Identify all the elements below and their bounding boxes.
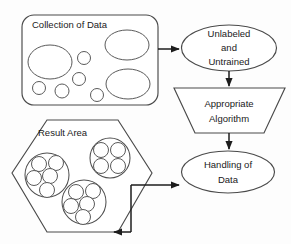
- blob-small-4: [55, 84, 69, 98]
- node-unlabeled-and-untrained[interactable]: Unlabeled and Untrained: [182, 25, 277, 71]
- cluster-top-right: [90, 138, 130, 178]
- blob-bottom-right: [106, 69, 150, 99]
- blob-small-1: [78, 52, 91, 65]
- blob-left-large: [28, 45, 72, 79]
- algorithm-line1: Appropriate: [204, 98, 253, 109]
- result-area-label: Result Area: [38, 127, 88, 138]
- cluster-left-point-4: [43, 169, 58, 184]
- blob-small-3: [33, 82, 46, 95]
- node-handling-of-data[interactable]: Handling of Data: [182, 151, 275, 193]
- cluster-left: [25, 153, 69, 198]
- cluster-top-right-point-2: [111, 143, 126, 158]
- node-appropriate-algorithm[interactable]: Appropriate Algorithm: [174, 88, 285, 133]
- blob-small-5: [91, 89, 104, 102]
- diagram-canvas: Collection of Data Unlabeled and Untrain…: [0, 0, 291, 244]
- cluster-bottom-point-3: [64, 199, 79, 214]
- handling-line2: Data: [218, 174, 239, 185]
- blob-top-right: [105, 30, 149, 60]
- cluster-top-right-point-4: [111, 159, 126, 174]
- handling-line1: Handling of: [204, 159, 252, 170]
- flowchart-diagram: Collection of Data Unlabeled and Untrain…: [0, 0, 291, 244]
- collection-label: Collection of Data: [32, 19, 108, 30]
- unlabeled-line3: Untrained: [208, 56, 249, 67]
- cluster-bottom-point-5: [76, 210, 91, 225]
- unlabeled-line1: Unlabeled: [208, 28, 251, 39]
- cluster-bottom: [62, 180, 106, 225]
- cluster-left-point-3: [27, 171, 42, 186]
- handling-ellipse: [182, 151, 275, 193]
- algorithm-line2: Algorithm: [209, 113, 249, 124]
- unlabeled-line2: and: [221, 42, 237, 53]
- cluster-bottom-point-1: [69, 185, 84, 200]
- cluster-top-right-point-1: [94, 143, 109, 158]
- cluster-left-point-1: [32, 157, 47, 172]
- cluster-left-point-5: [40, 183, 55, 198]
- blob-small-2: [73, 73, 86, 86]
- node-collection-of-data[interactable]: Collection of Data: [22, 15, 158, 105]
- algorithm-trapezoid: [174, 88, 285, 133]
- cluster-top-right-point-3: [94, 159, 109, 174]
